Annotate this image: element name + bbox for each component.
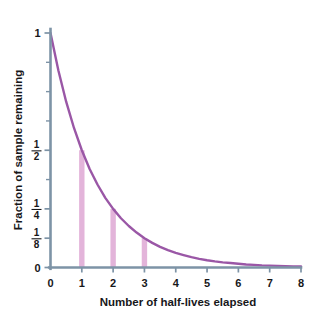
drop-bar (79, 150, 84, 267)
chart-background (0, 0, 323, 321)
x-axis-tick-label: 7 (267, 277, 273, 289)
x-axis-tick-label: 0 (47, 277, 53, 289)
y-axis-title: Fraction of sample remaining (12, 70, 24, 230)
fraction-numerator: 1 (34, 139, 40, 150)
y-axis-tick-label: 0 (34, 262, 40, 274)
x-axis-tick-label: 6 (235, 277, 241, 289)
chart-canvas: 012345678 11214180 Number of half-lives … (0, 0, 323, 321)
x-axis-tick-label: 3 (141, 277, 147, 289)
half-life-decay-chart: 012345678 11214180 Number of half-lives … (0, 0, 323, 321)
fraction-numerator: 1 (34, 227, 40, 238)
fraction-denominator: 2 (34, 151, 40, 162)
x-axis-title: Number of half-lives elapsed (100, 296, 257, 308)
fraction-numerator: 1 (34, 198, 40, 209)
drop-bar (110, 209, 115, 268)
y-axis-tick-label: 1 (34, 27, 40, 39)
x-axis-tick-label: 2 (110, 277, 116, 289)
drop-bar (142, 238, 147, 267)
x-axis-tick-label: 8 (298, 277, 304, 289)
fraction-denominator: 8 (34, 239, 40, 250)
x-axis-tick-label: 1 (79, 277, 85, 289)
x-axis-tick-label: 5 (204, 277, 210, 289)
fraction-denominator: 4 (34, 210, 40, 221)
x-axis-tick-label: 4 (173, 277, 180, 289)
